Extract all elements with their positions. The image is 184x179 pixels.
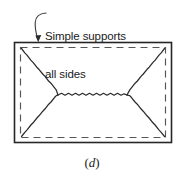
figure-caption: (d) xyxy=(0,155,184,171)
figure-container: Simple supports all sides (d) xyxy=(0,0,184,179)
annotation-label-line-2: all sides xyxy=(45,68,175,81)
annotation-label-line-1: Simple supports xyxy=(45,30,175,43)
annotation-label: Simple supports all sides xyxy=(45,5,175,105)
annotation-arrowhead-icon xyxy=(35,35,41,42)
caption-close-paren: ) xyxy=(95,155,99,170)
